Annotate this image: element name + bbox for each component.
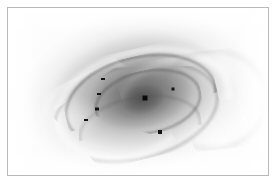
bright-arm-band-north bbox=[42, 29, 245, 175]
glow-patch-south-east bbox=[176, 112, 256, 164]
marker-arm-west-lower bbox=[84, 119, 88, 121]
bright-arm-band-west bbox=[25, 40, 209, 175]
galaxy-inner-disc bbox=[71, 42, 211, 148]
dust-lane-south bbox=[73, 86, 207, 173]
galaxy-outer-halo bbox=[8, 8, 268, 175]
glow-patch-west bbox=[38, 94, 102, 142]
marker-arm-west-upper bbox=[97, 93, 101, 95]
marker-arm-south-east bbox=[158, 130, 162, 134]
page-root bbox=[0, 0, 276, 183]
marker-arm-north-west bbox=[101, 78, 105, 80]
figure-frame bbox=[7, 7, 269, 176]
marker-arm-west-mid bbox=[95, 108, 99, 111]
galaxy-nucleus-marker bbox=[143, 96, 148, 101]
galaxy-mid-halo bbox=[19, 8, 257, 175]
galaxy-image bbox=[8, 8, 268, 175]
plate-vignette bbox=[8, 8, 268, 175]
dust-lane-outer-east bbox=[153, 45, 268, 156]
glow-patch-north-east bbox=[184, 36, 262, 90]
marker-arm-east-upper bbox=[172, 88, 175, 91]
dust-lane-inner-ring bbox=[89, 59, 208, 144]
dust-lane-outer-west bbox=[43, 45, 229, 175]
dust-lane-inner-north bbox=[56, 40, 227, 164]
bright-arm-band-east bbox=[110, 47, 256, 163]
